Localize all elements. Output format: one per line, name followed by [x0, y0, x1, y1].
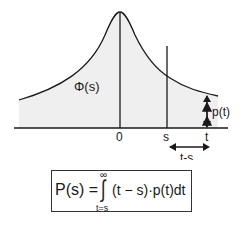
interval-arrow-head-right [203, 143, 210, 151]
curve-label: Φ(s) [74, 79, 100, 94]
formula-lhs: P(s) = [55, 181, 98, 199]
density-diagram: Φ(s) 0 s t p(t) t-s [0, 0, 242, 160]
interval-arrow-head-left [169, 143, 176, 151]
height-label: p(t) [212, 105, 230, 119]
shaded-area [19, 12, 218, 128]
axis-label-zero: 0 [116, 130, 123, 144]
interval-label: t-s [180, 151, 193, 160]
axis-label-t: t [205, 130, 209, 144]
axis-label-s: s [163, 130, 169, 144]
formula-upper-limit: ∞ [100, 169, 107, 180]
formula-integrand: (t − s)·p(t)dt [112, 182, 186, 198]
formula-lower-limit: t=s [96, 203, 108, 213]
